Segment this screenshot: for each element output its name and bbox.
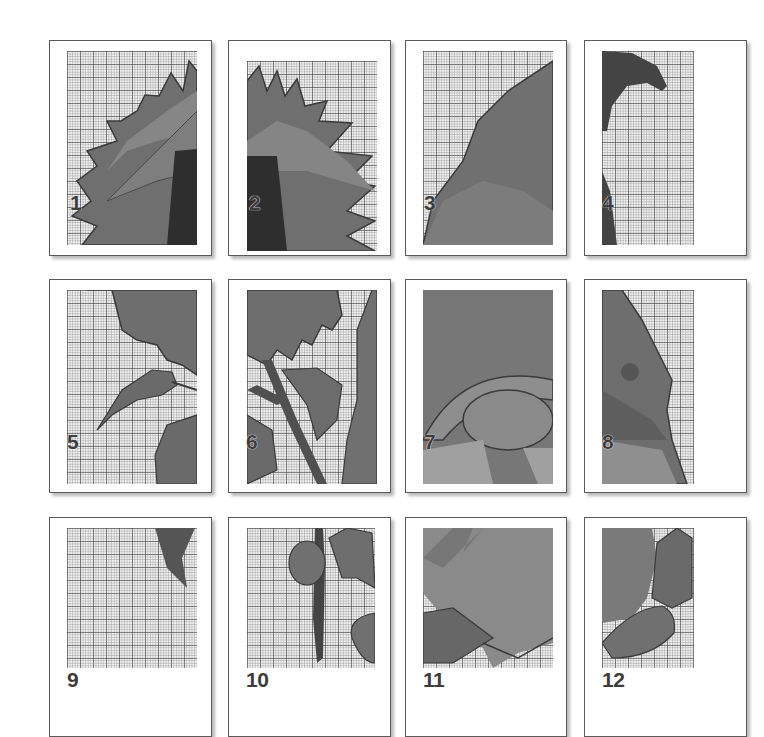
page-number: 5 (67, 430, 78, 454)
stitch-chart (67, 51, 197, 245)
sunflower-artwork (67, 51, 197, 245)
pattern-page-10[interactable]: 10 (228, 517, 391, 737)
pattern-page-2[interactable]: 2 (228, 40, 391, 256)
pattern-page-5[interactable]: 5 (49, 279, 212, 493)
stitch-chart (67, 528, 197, 668)
stitch-chart (247, 61, 377, 251)
pattern-page-4[interactable]: 4 (584, 40, 747, 256)
stitch-chart (247, 528, 375, 668)
leaf-tip-artwork (67, 528, 197, 668)
sunflower-stem-artwork (247, 290, 377, 484)
gnome-beard-artwork (423, 528, 553, 668)
pattern-page-12[interactable]: 12 (584, 517, 747, 737)
pattern-page-1[interactable]: 1 (49, 40, 212, 256)
page-number: 11 (423, 668, 444, 692)
stitch-chart (247, 290, 377, 484)
page-number: 6 (246, 430, 257, 454)
stitch-chart (423, 51, 553, 245)
gnome-hat-artwork (423, 51, 553, 245)
stitch-chart (67, 290, 197, 484)
gnome-hat-tip-artwork (602, 51, 694, 245)
sunflower-leaf-artwork (67, 290, 197, 484)
pattern-page-8[interactable]: 8 (584, 279, 747, 493)
gnome-brim-artwork (423, 290, 553, 484)
page-number: 7 (424, 430, 435, 454)
stitch-chart (602, 528, 694, 668)
page-number: 8 (602, 430, 613, 454)
stitch-chart (423, 290, 553, 484)
stitch-chart (423, 528, 553, 668)
pattern-page-9[interactable]: 9 (49, 517, 212, 737)
page-number: 3 (424, 191, 435, 215)
stitch-chart (602, 290, 694, 484)
sunflower-artwork (247, 61, 377, 251)
pattern-page-7[interactable]: 7 (405, 279, 567, 493)
pattern-page-11[interactable]: 11 (405, 517, 567, 737)
page-number: 12 (602, 668, 624, 692)
pattern-page-3[interactable]: 3 (405, 40, 567, 256)
page-number: 1 (70, 191, 81, 215)
stitch-chart (602, 51, 694, 245)
pattern-page-6[interactable]: 6 (228, 279, 391, 493)
stem-leaves-artwork (247, 528, 375, 668)
gnome-hat-side-artwork (602, 290, 694, 484)
page-number: 10 (246, 668, 268, 692)
page-number: 9 (67, 668, 78, 692)
gnome-feet-artwork (602, 528, 694, 668)
page-number: 2 (249, 191, 260, 215)
page-number: 4 (602, 191, 613, 215)
